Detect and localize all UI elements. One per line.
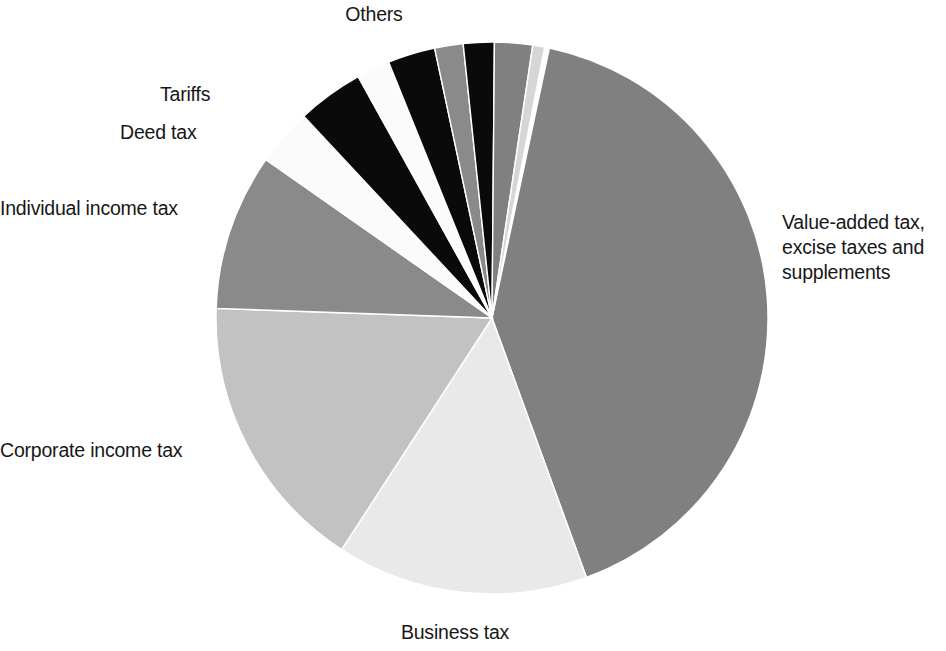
pie-label-corporate-income-tax: Corporate income tax (0, 438, 207, 463)
pie-chart-canvas (0, 0, 946, 651)
pie-label-individual-income-tax: Individual income tax (0, 196, 221, 221)
pie-label-value-added-tax: Value-added tax, excise taxes and supple… (782, 210, 946, 285)
pie-label-deed-tax: Deed tax (120, 120, 310, 145)
pie-label-tariffs: Tariffs (160, 82, 310, 107)
pie-chart: Others Tariffs Deed tax Individual incom… (0, 0, 946, 651)
pie-label-business-tax: Business tax (370, 620, 540, 645)
pie-label-others: Others (314, 2, 434, 27)
